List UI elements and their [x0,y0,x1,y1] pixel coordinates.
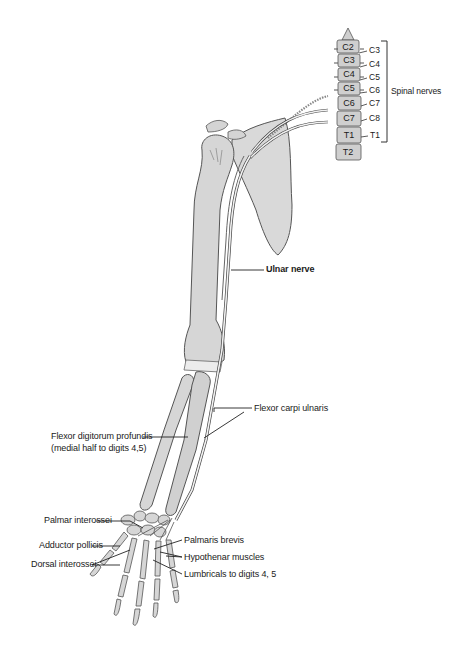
coracoid [228,130,246,139]
flexor-carpi-ulnaris-label: Flexor carpi ulnaris [254,403,328,414]
palmaris-brevis-label: Palmaris brevis [184,535,244,546]
flexor-digitorum-profundis-sublabel: (medial half to digits 4,5) [51,443,146,454]
flexor-digitorum-profundis-label: Flexor digitorum profundis [51,431,152,442]
nerve-root-label: C7 [369,98,380,108]
ulnar-nerve-diagram: C2 C3 C4 C5 C6 C7 T1 T2 C3 C4 C5 C6 C7 C… [0,0,459,659]
vertebra-label: C5 [337,83,361,93]
vertebra-label: T1 [337,130,361,140]
vertebra-label: C4 [337,69,361,79]
vertebra-label: C3 [337,55,361,65]
spinal-nerves-label: Spinal nerves [391,86,441,97]
dorsal-interossei-label: Dorsal interossei [31,559,96,570]
nerve-root-label: C6 [369,85,380,95]
hypothenar-muscles-label: Hypothenar muscles [184,552,264,563]
nerve-root-label: C5 [369,72,380,82]
nerve-root-label: C4 [369,59,380,69]
nerve-root-label: T1 [370,130,380,140]
vertebra-label: T2 [336,147,360,157]
adductor-pollicis-label: Adductor pollicis [39,540,103,551]
humerus [184,135,234,366]
elbow-cartilage [184,360,222,372]
vertebra-label: C6 [337,98,361,108]
vertebra-label: C2 [336,42,360,52]
vertebra-label: C7 [337,113,361,123]
lumbricals-label: Lumbricals to digits 4, 5 [184,569,276,580]
nerve-root-label: C3 [369,45,380,55]
carpal-bones [121,511,170,537]
palmar-interossei-label: Palmar interossei [44,515,112,526]
finger-bones [114,538,179,625]
nerve-root-label: C8 [369,113,380,123]
acromion [206,120,228,132]
spinal-nerves-bracket [381,41,387,142]
ulnar-nerve-label: Ulnar nerve [266,264,314,275]
